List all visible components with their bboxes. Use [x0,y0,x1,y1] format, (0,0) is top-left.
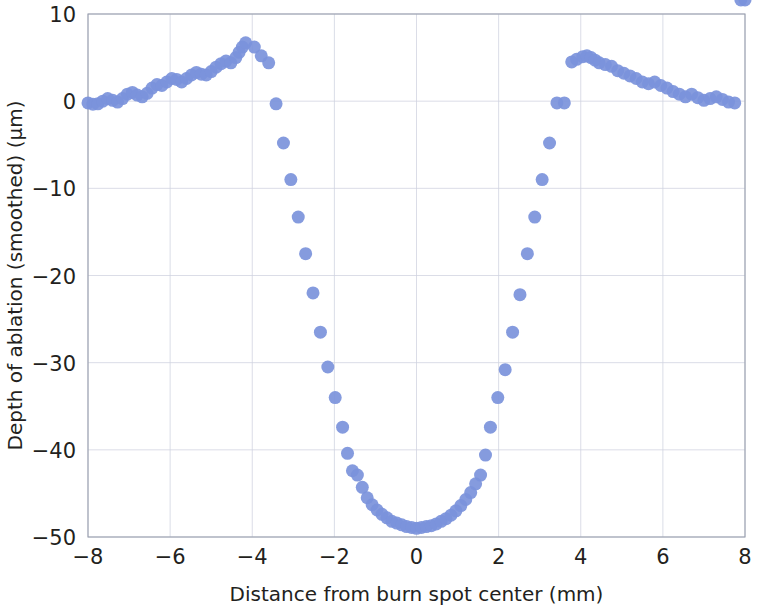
data-point [321,361,334,374]
data-point [270,97,283,110]
data-point [558,96,571,109]
data-point [513,288,526,301]
y-tick-label: −20 [32,265,76,289]
y-tick-label: −50 [32,526,76,550]
x-tick-label: 2 [492,545,505,569]
y-tick-label: −30 [32,352,76,376]
data-point [341,447,354,460]
data-point [262,56,275,69]
data-point [336,421,349,434]
y-axis-title: Depth of ablation (smoothed) (µm) [3,100,27,450]
y-tick-label: 10 [49,3,76,27]
data-point [314,326,327,339]
x-tick-label: −6 [155,545,186,569]
figure-container: −8−6−4−202468100−10−20−30−40−50Distance … [0,0,761,609]
data-point [351,469,364,482]
data-point [536,173,549,186]
data-point [277,137,290,150]
data-point [543,137,556,150]
data-point [299,247,312,260]
x-tick-label: 8 [738,545,751,569]
data-point [499,363,512,376]
x-tick-label: −4 [237,545,268,569]
x-axis-title: Distance from burn spot center (mm) [230,582,604,606]
x-tick-label: −2 [319,545,350,569]
y-tick-label: 0 [63,90,76,114]
data-point [484,421,497,434]
data-point [528,211,541,224]
data-point [329,391,342,404]
data-point [479,449,492,462]
y-tick-label: −10 [32,177,76,201]
x-tick-label: 6 [656,545,669,569]
data-point [292,211,305,224]
data-point [284,173,297,186]
data-point [521,247,534,260]
x-tick-label: 0 [410,545,423,569]
y-tick-label: −40 [32,439,76,463]
data-point [506,326,519,339]
data-point [307,286,320,299]
data-point [491,391,504,404]
data-point [728,96,741,109]
scatter-plot: −8−6−4−202468100−10−20−30−40−50Distance … [0,0,761,609]
x-tick-label: 4 [574,545,587,569]
data-point [474,469,487,482]
x-tick-label: −8 [73,545,104,569]
